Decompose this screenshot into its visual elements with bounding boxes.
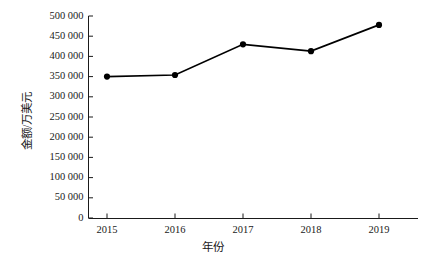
y-axis-title: 金额/万美元 xyxy=(18,51,34,191)
data-series-line xyxy=(107,25,379,77)
data-point-marker xyxy=(104,74,110,80)
x-axis-tick-label: 2019 xyxy=(349,225,409,235)
y-axis-ticks xyxy=(89,16,94,218)
y-axis-tick-label: 500 000 xyxy=(0,11,84,21)
data-point-marker xyxy=(308,48,314,54)
y-axis-tick-label: 350 000 xyxy=(0,71,84,81)
y-axis-tick-label: 100 000 xyxy=(0,172,84,182)
x-axis-title: 年份 xyxy=(0,238,426,254)
y-axis-tick-label: 450 000 xyxy=(0,31,84,41)
data-point-marker xyxy=(376,22,382,28)
x-axis-tick-label: 2016 xyxy=(145,225,205,235)
y-axis-tick-label: 250 000 xyxy=(0,112,84,122)
y-axis-tick-label: 0 xyxy=(0,213,84,223)
data-point-markers xyxy=(104,22,382,80)
x-axis-tick-label: 2017 xyxy=(213,225,273,235)
y-axis-tick-label: 300 000 xyxy=(0,91,84,101)
y-axis-tick-label: 50 000 xyxy=(0,192,84,202)
y-axis-tick-label: 200 000 xyxy=(0,132,84,142)
data-point-marker xyxy=(172,72,178,78)
x-axis-tick-label: 2018 xyxy=(281,225,341,235)
x-axis-tick-label: 2015 xyxy=(77,225,137,235)
y-axis-tick-label: 150 000 xyxy=(0,152,84,162)
y-axis-tick-label: 400 000 xyxy=(0,51,84,61)
line-chart: 050 000100 000150 000200 000250 000300 0… xyxy=(0,0,426,267)
x-axis-ticks xyxy=(107,214,379,219)
data-point-marker xyxy=(240,41,246,47)
